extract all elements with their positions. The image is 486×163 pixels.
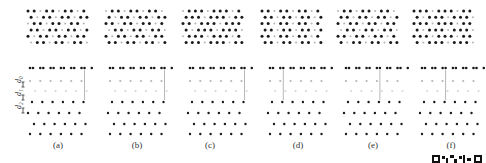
panel-label-b: (b)	[132, 140, 143, 150]
panel-label-c: (c)	[205, 140, 215, 150]
lattice-figure	[0, 0, 486, 163]
panel-label-d: (d)	[293, 140, 304, 150]
qr-code-icon	[432, 155, 482, 163]
lattice-diagrams	[0, 0, 486, 163]
d2-label: d₂	[14, 102, 23, 109]
panel-label-f: (f)	[447, 140, 456, 150]
panel-label-a: (a)	[53, 140, 63, 150]
d0-label: d₀	[14, 76, 23, 83]
panel-label-e: (e)	[368, 140, 378, 150]
d1-label: d₁	[14, 89, 23, 96]
